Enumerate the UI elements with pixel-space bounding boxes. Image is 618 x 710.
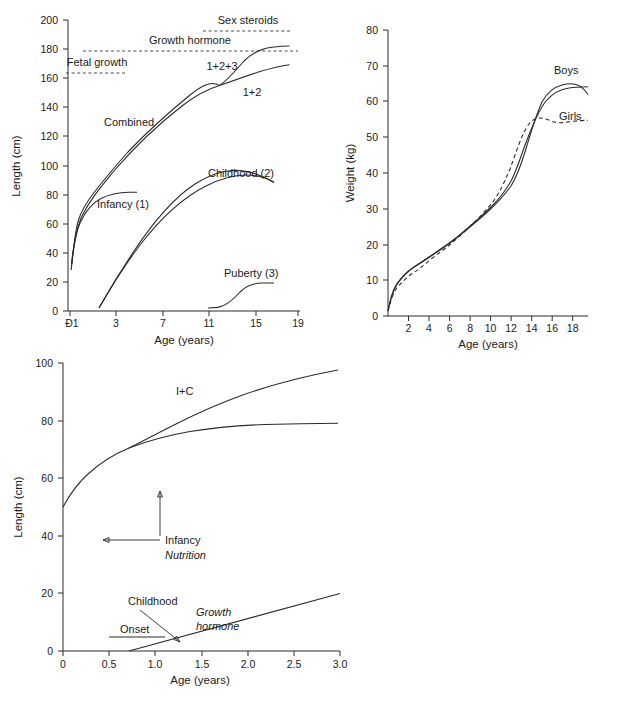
annotation-label-hormone: hormone (196, 620, 239, 632)
y-axis-title: Length (cm) (12, 476, 24, 538)
y-tick-label: 60 (46, 218, 58, 230)
x-tick-label: 18 (567, 322, 579, 334)
x-tick-label: 0.5 (102, 658, 117, 670)
y-tick-labels: 0 20 40 60 80 100 (35, 357, 53, 657)
y-tick-label: 140 (40, 101, 58, 113)
x-tick-label: 15 (250, 317, 262, 329)
y-tick-label: 60 (41, 472, 53, 484)
x-tick-label: 19 (292, 317, 304, 329)
x-tick-label: 0 (60, 658, 66, 670)
x-tick-labels: Ð1 3 7 11 15 19 (65, 317, 304, 329)
y-tick-label: 70 (366, 60, 378, 72)
y-tick-label: 40 (366, 167, 378, 179)
band-label-growth-hormone: Growth hormone (149, 34, 231, 46)
x-tick-label: Ð1 (65, 317, 79, 329)
curve-label-i-plus-c: I+C (176, 385, 193, 397)
y-ticks (58, 363, 63, 651)
annotation-label-childhood: Childhood (128, 595, 178, 607)
y-tick-label: 80 (41, 415, 53, 427)
curve-boys (388, 84, 588, 311)
chart-weight-boys-girls: 0 10 20 30 40 50 60 70 80 2 4 6 8 10 12 … (340, 0, 618, 350)
curve-label-puberty: Puberty (3) (224, 267, 278, 279)
y-tick-labels: 0 20 40 60 80 100 120 140 160 180 200 (40, 14, 58, 317)
y-tick-label: 10 (366, 274, 378, 286)
curve-childhood (99, 170, 274, 308)
x-tick-label: 1.5 (195, 658, 210, 670)
curve-label-boys: Boys (554, 64, 579, 76)
annotation-label-onset: Onset (120, 623, 149, 635)
x-tick-labels: 2 4 6 8 10 12 14 16 18 (406, 322, 579, 334)
curve-label-1-2: 1+2 (243, 86, 262, 98)
x-axis-title: Age (years) (170, 674, 230, 686)
y-tick-label: 50 (366, 131, 378, 143)
y-tick-label: 200 (40, 14, 58, 26)
growth-figure: 0 20 40 60 80 100 120 140 160 180 200 Ð1… (0, 0, 618, 710)
chart-length-growth-phases: 0 20 40 60 80 100 120 140 160 180 200 Ð1… (0, 0, 345, 350)
y-tick-label: 20 (46, 276, 58, 288)
x-tick-label: 10 (485, 322, 497, 334)
y-tick-label: 0 (372, 310, 378, 322)
y-tick-label: 180 (40, 43, 58, 55)
x-tick-labels: 0 0.5 1.0 1.5 2.0 2.5 3.0 (60, 658, 347, 670)
annotation-label-growth: Growth (196, 606, 231, 618)
y-tick-label: 40 (46, 247, 58, 259)
y-tick-label: 20 (366, 239, 378, 251)
x-tick-label: 7 (160, 317, 166, 329)
y-tick-label: 60 (366, 95, 378, 107)
curve-i-plus-c (129, 370, 338, 448)
x-tick-label: 16 (546, 322, 558, 334)
x-ticks (63, 651, 340, 656)
y-tick-label: 80 (46, 189, 58, 201)
band-label-fetal-growth: Fetal growth (67, 56, 128, 68)
x-ticks (409, 316, 573, 321)
y-tick-labels: 0 10 20 30 40 50 60 70 80 (366, 24, 378, 322)
y-axis-title: Length (cm) (10, 135, 22, 197)
x-tick-label: 3 (113, 317, 119, 329)
y-tick-label: 0 (52, 305, 58, 317)
annotation-infancy: Infancy Nutrition (103, 491, 206, 561)
curve-girls (388, 118, 588, 311)
x-tick-label: 12 (505, 322, 517, 334)
x-tick-label: 4 (426, 322, 432, 334)
annotation-onset: Onset (109, 623, 165, 637)
curve-childhood-main (99, 175, 274, 308)
x-tick-label: 11 (204, 317, 215, 329)
y-tick-label: 100 (35, 357, 53, 369)
y-axis-title: Weight (kg) (344, 144, 356, 203)
curve-label-childhood: Childhood (2) (208, 167, 274, 179)
curve-boys-main (388, 87, 588, 311)
x-tick-label: 14 (526, 322, 538, 334)
curve-infancy (63, 423, 338, 507)
y-tick-label: 20 (41, 587, 53, 599)
x-tick-label: 8 (467, 322, 473, 334)
y-tick-label: 100 (40, 160, 58, 172)
annotation-label-infancy: Infancy (165, 534, 201, 546)
x-ticks (70, 311, 298, 316)
annotation-label-nutrition: Nutrition (165, 549, 206, 561)
y-ticks (383, 30, 388, 316)
x-tick-label: 1.0 (148, 658, 163, 670)
y-tick-label: 30 (366, 203, 378, 215)
chart-infancy-childhood-components: 0 20 40 60 80 100 0 0.5 1.0 1.5 2.0 2.5 … (0, 352, 380, 710)
curve-puberty (208, 283, 274, 308)
y-tick-label: 160 (40, 72, 58, 84)
y-tick-label: 80 (366, 24, 378, 36)
curve-label-1-2-3: 1+2+3 (206, 60, 237, 72)
x-tick-label: 2.5 (287, 658, 302, 670)
x-axis-title: Age (years) (154, 334, 214, 346)
y-tick-label: 0 (47, 645, 53, 657)
x-tick-label: 6 (447, 322, 453, 334)
band-label-sex-steroids: Sex steroids (218, 14, 279, 26)
curve-label-combined: Combined (104, 116, 154, 128)
x-tick-label: 3.0 (333, 658, 348, 670)
x-axis-title: Age (years) (458, 338, 518, 350)
curve-label-infancy: Infancy (1) (97, 198, 149, 210)
curve-label-girls: Girls (559, 110, 582, 122)
y-tick-label: 40 (41, 530, 53, 542)
y-tick-label: 120 (40, 130, 58, 142)
x-tick-label: 2.0 (241, 658, 256, 670)
x-tick-label: 2 (406, 322, 412, 334)
